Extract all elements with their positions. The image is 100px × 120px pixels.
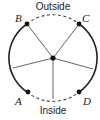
point-d-label: D [82,95,91,107]
center-point [50,55,55,60]
point-b [25,22,30,27]
point-c-label: C [82,12,90,24]
spoke-to-c [53,24,79,58]
spoke-to-b [27,24,53,58]
circle-diagram: Outside Inside B C A D [0,0,100,120]
top-dashed-arc [27,15,79,24]
point-d [77,90,82,95]
outside-label: Outside [36,1,71,12]
left-arc [9,24,27,92]
point-b-label: B [15,12,22,24]
spoke-left [13,58,53,68]
right-arc [79,24,97,92]
point-c [77,22,82,27]
inside-label: Inside [40,105,67,116]
point-a-label: A [14,95,22,107]
point-a [26,90,31,95]
spoke-right [53,58,93,69]
